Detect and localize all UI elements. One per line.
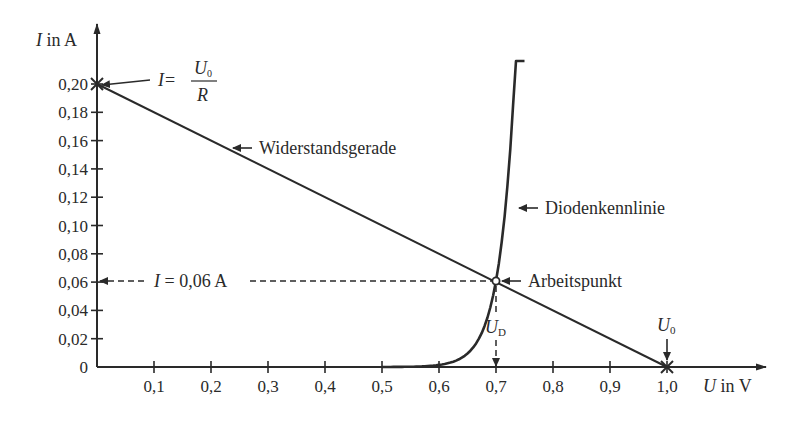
x-tick-label: 0,6 bbox=[428, 377, 449, 396]
y-tick-label: 0,08 bbox=[58, 245, 88, 264]
x-tick-label: 0,9 bbox=[599, 377, 620, 396]
x-tick-label: 0,1 bbox=[143, 377, 164, 396]
svg-text:I: I bbox=[157, 70, 165, 90]
x-axis-label: U in V bbox=[703, 376, 752, 396]
operating-point-marker bbox=[492, 277, 499, 284]
svg-text:R: R bbox=[196, 85, 208, 105]
y-tick-label: 0,10 bbox=[58, 217, 88, 236]
label-current-value: I = 0,06 A bbox=[153, 271, 227, 291]
label-diode-curve: Diodenkennlinie bbox=[545, 198, 665, 218]
y-tick-label: 0,04 bbox=[58, 301, 88, 320]
svg-text:=: = bbox=[165, 70, 175, 90]
arrow-formula bbox=[102, 80, 150, 85]
resistance-line bbox=[97, 84, 667, 367]
y-tick-label: 0,12 bbox=[58, 188, 88, 207]
y-tick-label: 0,20 bbox=[58, 75, 88, 94]
x-tick-label: 0,5 bbox=[371, 377, 392, 396]
y-tick-label: 0,06 bbox=[58, 273, 88, 292]
y-tick-label: 0,02 bbox=[58, 330, 88, 349]
label-resistance-line: Widerstandsgerade bbox=[259, 138, 396, 158]
chart-canvas: 0,10,20,30,40,50,60,70,80,91,0 00,020,04… bbox=[0, 0, 796, 423]
diode-curve bbox=[382, 61, 525, 367]
x-tick-label: 0,2 bbox=[200, 377, 221, 396]
label-ud: UD bbox=[485, 317, 506, 338]
x-tick-label: 1,0 bbox=[656, 377, 677, 396]
y-tick-label: 0,16 bbox=[58, 132, 88, 151]
x-tick-label: 0,8 bbox=[542, 377, 563, 396]
x-tick-label: 0,4 bbox=[314, 377, 336, 396]
x-tick-label: 0,3 bbox=[257, 377, 278, 396]
x-tick-label: 0,7 bbox=[485, 377, 507, 396]
y-axis-label: I in A bbox=[35, 30, 77, 50]
svg-text:U0: U0 bbox=[194, 58, 212, 79]
y-tick-label: 0 bbox=[80, 358, 89, 377]
label-u0: U0 bbox=[657, 315, 676, 336]
y-tick-label: 0,14 bbox=[58, 160, 88, 179]
formula-i-u0-over-r: I = U0 R bbox=[157, 58, 217, 105]
label-operating-point: Arbeitspunkt bbox=[528, 271, 622, 291]
y-tick-label: 0,18 bbox=[58, 103, 88, 122]
